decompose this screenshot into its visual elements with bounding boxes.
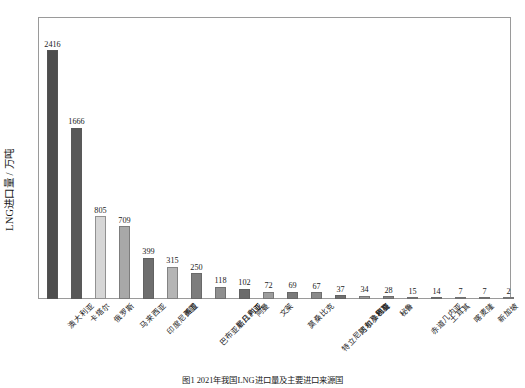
figure-container: LNG进口量 / 万吨 2416166680570939931525011810…: [0, 0, 525, 388]
x-axis-tick-labels: 澳大利亚卡塔尔俄罗斯马来西亚印度尼西亚美国巴布亚新几内亚尼日利亚阿曼文莱莫桑比克…: [38, 301, 511, 371]
x-tick-label: 马来西亚: [138, 301, 167, 330]
x-tick-label: 俄罗斯: [112, 301, 136, 325]
x-tick-label: 莫桑比克: [306, 301, 335, 330]
y-axis-label: LNG进口量 / 万吨: [2, 120, 18, 260]
plot-area: [38, 17, 511, 299]
x-tick-label: 新加坡: [496, 301, 520, 325]
x-tick-label: 秘鲁: [397, 301, 415, 319]
x-tick-label: 文莱: [277, 301, 295, 319]
x-tick-label: 喀麦隆: [472, 301, 496, 325]
figure-caption: 图1 2021年我国LNG进口量及主要进口来源国: [0, 374, 525, 388]
